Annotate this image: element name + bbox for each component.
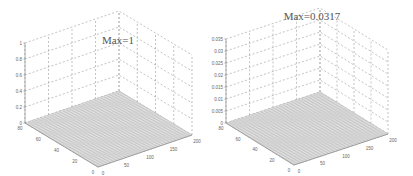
svg-text:0: 0 <box>102 171 105 176</box>
svg-text:50: 50 <box>124 163 130 168</box>
svg-text:0.2: 0.2 <box>16 105 23 110</box>
svg-text:50: 50 <box>320 161 326 166</box>
svg-text:20: 20 <box>269 158 275 163</box>
svg-text:0.8: 0.8 <box>16 57 23 62</box>
svg-text:0: 0 <box>220 121 223 126</box>
svg-text:0.03: 0.03 <box>214 49 223 54</box>
svg-text:0.6: 0.6 <box>16 73 23 78</box>
right-surface-plot: 00.0050.010.0150.020.0250.030.0350204060… <box>206 0 413 176</box>
svg-text:0: 0 <box>19 121 22 126</box>
svg-text:0.01: 0.01 <box>214 97 223 102</box>
max-annotation: Max=0.0317 <box>284 10 341 22</box>
svg-text:0.015: 0.015 <box>212 85 224 90</box>
svg-text:40: 40 <box>54 148 60 153</box>
svg-text:40: 40 <box>252 147 258 152</box>
svg-text:0.005: 0.005 <box>212 109 224 114</box>
svg-text:60: 60 <box>36 137 42 142</box>
svg-text:0: 0 <box>288 168 291 173</box>
z-tick-labels: 00.20.40.60.81 <box>16 41 25 126</box>
svg-text:80: 80 <box>218 126 224 131</box>
max-annotation: Max=1 <box>102 34 134 46</box>
svg-text:20: 20 <box>72 159 78 164</box>
svg-text:1: 1 <box>19 41 22 46</box>
right-plot-canvas: 00.0050.010.0150.020.0250.030.0350204060… <box>206 0 413 176</box>
svg-text:60: 60 <box>235 137 241 142</box>
svg-text:150: 150 <box>366 146 374 151</box>
svg-text:0.4: 0.4 <box>16 89 23 94</box>
z-tick-labels: 00.0050.010.0150.020.0250.030.035 <box>212 37 226 126</box>
left-plot-canvas: 00.20.40.60.81020406080050100150200Max=1 <box>0 0 206 176</box>
left-surface-plot: 00.20.40.60.81020406080050100150200Max=1 <box>0 0 206 176</box>
svg-text:100: 100 <box>342 154 350 159</box>
svg-text:0.035: 0.035 <box>212 37 224 42</box>
svg-text:100: 100 <box>146 155 154 160</box>
svg-text:0.02: 0.02 <box>214 73 223 78</box>
svg-text:200: 200 <box>193 139 201 144</box>
surface-mesh <box>25 91 192 167</box>
svg-text:0: 0 <box>298 169 301 174</box>
svg-text:0: 0 <box>92 170 95 175</box>
svg-text:80: 80 <box>17 126 23 131</box>
svg-text:0.025: 0.025 <box>212 61 224 66</box>
svg-text:150: 150 <box>170 147 178 152</box>
svg-text:200: 200 <box>389 138 397 143</box>
